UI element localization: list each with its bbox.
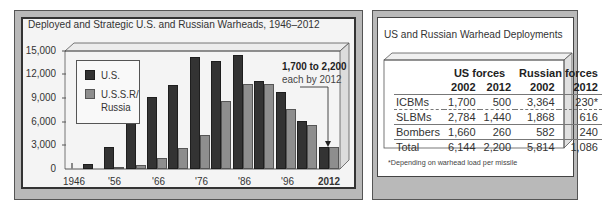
cell: 500 xyxy=(480,95,516,110)
bar-us-1991 xyxy=(254,81,264,169)
deployments-table: US forces Russian forces 2002 2012 2002 … xyxy=(394,66,602,154)
x-tick-86: '86 xyxy=(238,175,251,187)
bar-ru-2012 xyxy=(329,147,339,169)
y-tick-9000: 9,000 xyxy=(13,91,56,103)
header-us-forces: US forces xyxy=(444,66,515,80)
cell: 1,700 xyxy=(444,95,480,110)
header-ru-2002: 2002 xyxy=(515,80,558,95)
x-tick-2012: 2012 xyxy=(318,175,340,187)
table-row-icbms: ICBMs 1,700 500 3,364 230* xyxy=(394,95,602,110)
y-tick-12000: 12,000 xyxy=(13,67,56,79)
bar-us-2012 xyxy=(319,147,329,169)
cell: 6,144 xyxy=(444,140,480,155)
bar-ru-1971 xyxy=(178,148,188,169)
bar-ru-1961 xyxy=(136,165,146,169)
chart-title: Deployed and Strategic U.S. and Russian … xyxy=(28,18,320,30)
cell: 260 xyxy=(480,125,516,140)
row-label: SLBMs xyxy=(394,110,444,125)
x-tick-66: '66 xyxy=(152,175,165,187)
deployments-table-panel: US and Russian Warhead Deployments US fo… xyxy=(372,10,578,200)
bar-us-1946 xyxy=(71,163,73,169)
bar-us-1956 xyxy=(104,147,114,169)
table-title: US and Russian Warhead Deployments xyxy=(384,28,563,40)
cell: 616 xyxy=(559,110,602,125)
bar-us-1996 xyxy=(276,92,286,169)
annotation-range: 1,700 to 2,200 xyxy=(282,60,346,72)
table-row-bombers: Bombers 1,660 260 582 240 xyxy=(394,125,602,140)
y-tick-15000: 15,000 xyxy=(13,44,56,56)
y-tick-6000: 6,000 xyxy=(13,115,56,127)
annotation-arrow-icon xyxy=(300,86,340,148)
legend-swatch-us xyxy=(85,70,95,80)
bar-ru-1986 xyxy=(243,84,253,169)
bar-us-1981 xyxy=(211,61,221,169)
x-tick-96: '96 xyxy=(281,175,294,187)
cell: 582 xyxy=(515,125,558,140)
legend-swatch-russia xyxy=(85,89,95,99)
bar-ru-1976 xyxy=(200,135,210,169)
bar-ru-1981 xyxy=(221,101,231,169)
cell: 1,086 xyxy=(559,140,602,155)
table-row-total: Total 6,144 2,200 5,814 1,086 xyxy=(394,140,602,155)
header-ru-2012: 2012 xyxy=(559,80,602,95)
header-us-2002: 2002 xyxy=(444,80,480,95)
x-tick-1946: 1946 xyxy=(63,175,85,187)
cell: 2,784 xyxy=(444,110,480,125)
header-russian-forces: Russian forces xyxy=(515,66,602,80)
row-label: Bombers xyxy=(394,125,444,140)
bar-ru-1966 xyxy=(157,158,167,169)
bar-us-1986 xyxy=(233,55,243,169)
cell: 240 xyxy=(559,125,602,140)
row-label: Total xyxy=(394,140,444,155)
bar-us-1971 xyxy=(168,85,178,169)
legend-label-us: U.S. xyxy=(101,69,120,82)
annotation-by-2012: each by 2012 xyxy=(282,73,341,85)
cell: 1,440 xyxy=(480,110,516,125)
row-label: ICBMs xyxy=(394,95,444,110)
header-us-2012: 2012 xyxy=(480,80,516,95)
bar-us-1976 xyxy=(190,57,200,169)
bar-ru-1991 xyxy=(264,84,274,169)
bar-ru-1956 xyxy=(114,167,124,169)
table-row-slbms: SLBMs 2,784 1,440 1,868 616 xyxy=(394,110,602,125)
table-frame: US and Russian Warhead Deployments US fo… xyxy=(377,17,574,177)
x-tick-76: '76 xyxy=(195,175,208,187)
cell: 230* xyxy=(559,95,602,110)
cell: 3,364 xyxy=(515,95,558,110)
cell: 5,814 xyxy=(515,140,558,155)
bar-us-1966 xyxy=(147,97,157,169)
bar-us-1951 xyxy=(83,164,93,169)
bar-ru-1996 xyxy=(286,109,296,169)
legend-label-ussr: U.S.S.R/ xyxy=(101,88,139,101)
y-tick-3000: 3,000 xyxy=(13,138,56,150)
cell: 2,200 xyxy=(480,140,516,155)
cell: 1,868 xyxy=(515,110,558,125)
table-footnote: *Depending on warhead load per missile xyxy=(388,158,517,167)
x-tick-56: '56 xyxy=(108,175,121,187)
legend-label-russia: Russia xyxy=(101,101,131,114)
chart-legend: U.S. U.S.S.R/ Russia xyxy=(76,60,140,124)
y-tick-0: 0 xyxy=(13,162,56,174)
cell: 1,660 xyxy=(444,125,480,140)
